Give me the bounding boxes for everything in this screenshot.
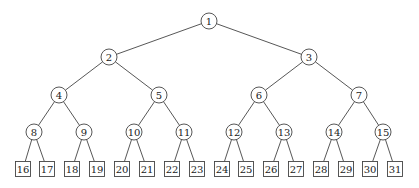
tree-node-4: 4 [51, 87, 67, 103]
tree-node-8: 8 [26, 124, 42, 140]
tree-leaf-20: 20 [115, 162, 130, 177]
tree-edge [137, 140, 145, 162]
tree-edge [338, 102, 354, 126]
tree-leaf-22: 22 [165, 162, 180, 177]
node-label: 16 [17, 164, 30, 175]
tree-node-10: 10 [126, 124, 142, 140]
node-label: 23 [191, 164, 204, 175]
tree-node-13: 13 [276, 124, 292, 140]
tree-leaf-31: 31 [388, 162, 403, 177]
tree-edge [363, 102, 378, 126]
tree-edge [38, 102, 54, 126]
tree-edge [163, 102, 179, 126]
tree-edge [174, 140, 181, 162]
tree-leaf-28: 28 [314, 162, 329, 177]
tree-node-15: 15 [375, 124, 391, 140]
node-label: 4 [56, 90, 62, 101]
node-label: 17 [41, 164, 54, 175]
tree-edge [263, 102, 279, 126]
node-label: 7 [356, 90, 362, 101]
node-label: 26 [265, 164, 278, 175]
node-label: 27 [290, 164, 303, 175]
node-label: 24 [216, 164, 229, 175]
node-label: 6 [256, 90, 262, 101]
node-label: 31 [389, 164, 402, 175]
node-label: 29 [340, 164, 353, 175]
tree-edge [373, 140, 381, 162]
node-label: 12 [228, 127, 241, 138]
tree-edge [224, 140, 231, 162]
node-label: 8 [31, 127, 37, 138]
tree-leaf-19: 19 [90, 162, 105, 177]
node-label: 3 [306, 52, 312, 63]
node-label: 15 [377, 127, 390, 138]
node-label: 11 [178, 127, 191, 138]
node-label: 21 [141, 164, 154, 175]
tree-leaf-29: 29 [339, 162, 354, 177]
tree-leaf-18: 18 [65, 162, 80, 177]
tree-node-14: 14 [326, 124, 342, 140]
tree-edge [74, 140, 81, 162]
tree-edge [25, 140, 31, 162]
tree-node-6: 6 [251, 87, 267, 103]
tree-edge [336, 140, 343, 162]
tree-leaf-26: 26 [264, 162, 279, 177]
tree-internal-nodes: 123456789101112131415 [26, 13, 391, 140]
tree-leaf-16: 16 [16, 162, 31, 177]
node-label: 13 [278, 127, 291, 138]
node-label: 30 [364, 164, 377, 175]
tree-node-11: 11 [176, 124, 192, 140]
tree-edge [115, 62, 152, 90]
tree-edge [37, 140, 45, 162]
binary-tree-diagram: 123456789101112131415 161718192021222324… [0, 0, 419, 188]
node-label: 14 [328, 127, 341, 138]
node-label: 10 [128, 127, 141, 138]
node-label: 28 [315, 164, 328, 175]
tree-edge [315, 62, 352, 90]
tree-edge [265, 62, 302, 90]
tree-edges [25, 24, 392, 162]
tree-leaf-23: 23 [190, 162, 205, 177]
tree-leaf-30: 30 [363, 162, 378, 177]
tree-node-9: 9 [76, 124, 92, 140]
tree-leaf-27: 27 [289, 162, 304, 177]
tree-edge [87, 140, 95, 162]
tree-node-1: 1 [201, 13, 217, 29]
tree-leaf-25: 25 [239, 162, 254, 177]
tree-edge [217, 24, 302, 55]
tree-edge [238, 102, 254, 126]
node-label: 5 [156, 90, 162, 101]
tree-edge [65, 62, 102, 90]
tree-node-2: 2 [101, 49, 117, 65]
tree-edge [385, 140, 392, 162]
node-label: 2 [106, 52, 112, 63]
tree-node-12: 12 [226, 124, 242, 140]
tree-node-7: 7 [351, 87, 367, 103]
tree-leaf-nodes: 16171819202122232425262728293031 [16, 162, 403, 177]
tree-edge [63, 102, 79, 126]
tree-edge [274, 140, 282, 162]
tree-leaf-21: 21 [140, 162, 155, 177]
node-label: 22 [166, 164, 179, 175]
node-label: 18 [66, 164, 79, 175]
tree-edge [117, 24, 202, 55]
tree-edge [236, 140, 243, 162]
tree-leaf-24: 24 [215, 162, 230, 177]
tree-node-5: 5 [151, 87, 167, 103]
tree-edge [286, 140, 293, 162]
node-label: 20 [116, 164, 129, 175]
tree-edge [138, 102, 154, 126]
tree-edge [187, 140, 195, 162]
node-label: 19 [91, 164, 104, 175]
tree-node-3: 3 [301, 49, 317, 65]
node-label: 1 [206, 16, 212, 27]
node-label: 9 [81, 127, 87, 138]
tree-edge [124, 140, 131, 162]
node-label: 25 [240, 164, 253, 175]
tree-leaf-17: 17 [40, 162, 55, 177]
tree-edge [324, 140, 332, 162]
